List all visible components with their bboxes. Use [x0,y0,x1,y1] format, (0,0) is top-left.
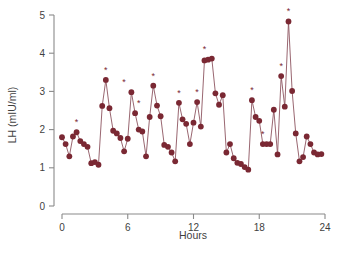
x-tick-label: 24 [319,222,331,233]
data-point [216,102,222,108]
data-point [74,129,80,135]
data-point [165,144,171,150]
peak-asterisk: * [287,6,291,16]
peak-asterisk: * [195,87,199,97]
y-tick-label: 4 [39,48,45,59]
x-axis-title: Hours [179,229,207,241]
data-point [180,116,186,122]
data-point [256,118,262,124]
peak-asterisk: * [250,85,254,95]
y-tick-label: 0 [39,201,45,212]
x-tick-label: 6 [125,222,131,233]
data-point [209,56,215,62]
data-point [187,141,193,147]
data-point [125,136,131,142]
data-point [158,113,164,119]
data-point [143,153,149,159]
peak-asterisk: * [203,44,207,54]
peak-asterisk: * [177,88,181,98]
y-tick-label: 3 [39,86,45,97]
data-point [128,89,134,95]
data-point [99,103,105,109]
data-point [147,114,153,120]
data-point [220,92,226,98]
data-point [172,158,178,164]
peak-asterisk: * [137,98,141,108]
data-point [289,88,295,94]
data-point [293,131,299,137]
data-point [183,121,189,127]
data-point [245,167,251,173]
data-point [85,144,91,150]
data-point [286,19,292,25]
y-tick-label: 5 [39,10,45,21]
data-point [282,104,288,110]
data-point [304,134,310,140]
data-point [96,162,102,168]
data-point [198,124,204,130]
y-axis-title: LH (mIU/ml) [6,87,18,144]
data-point [191,120,197,126]
data-point [118,135,124,141]
chart-canvas: 012345 06121824 ************ LH (mIU/ml)… [0,0,343,253]
data-point [114,131,120,137]
data-point [271,107,277,113]
y-tick-label: 1 [39,162,45,173]
y-axis: 012345 [39,10,54,212]
data-point [154,103,160,109]
series-polyline [62,21,321,169]
data-point [169,150,175,156]
y-tick-label: 2 [39,124,45,135]
data-point [300,154,306,160]
data-point [213,90,219,96]
data-point [63,141,69,147]
data-point [176,100,182,106]
data-point [318,151,324,157]
data-point [150,83,156,89]
data-point [121,148,127,154]
x-tick-label: 18 [254,222,266,233]
data-point [275,152,281,158]
data-point [223,150,229,156]
data-point [103,77,109,83]
data-point [132,110,138,116]
data-point [249,97,255,103]
peak-asterisk: * [75,117,79,127]
data-point [59,134,65,140]
data-point [66,153,72,159]
x-tick-label: 0 [59,222,65,233]
peak-asterisk: * [152,71,156,81]
data-point [139,129,145,135]
data-series-lh [59,19,324,173]
peak-asterisk: * [261,129,265,139]
peak-asterisk: * [279,61,283,71]
lh-pulsatility-chart: 012345 06121824 ************ LH (mIU/ml)… [0,0,343,253]
data-point [278,73,284,79]
peak-asterisk: * [122,77,126,87]
data-point [227,141,233,147]
peak-asterisk: * [104,65,108,75]
data-point [267,141,273,147]
data-point [107,105,113,111]
data-point [308,141,314,147]
data-point [231,155,237,161]
data-point [194,99,200,105]
